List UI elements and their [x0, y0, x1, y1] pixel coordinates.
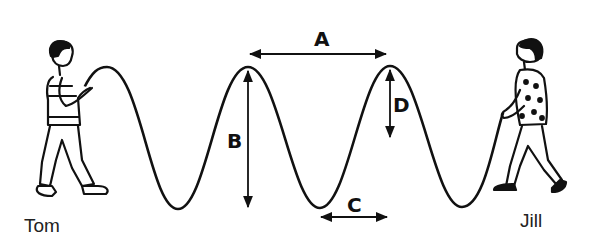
tom-name-label: Tom: [24, 216, 60, 235]
label-b: B: [227, 131, 242, 151]
wave-diagram: A B C D Tom Jill: [0, 0, 593, 240]
diagram-canvas: [0, 0, 593, 240]
rope-wave: [84, 66, 503, 209]
label-d: D: [393, 95, 410, 115]
label-c: C: [347, 195, 362, 215]
jill-name-label: Jill: [520, 211, 542, 230]
jill-figure-icon: [494, 39, 566, 192]
tom-figure-icon: [37, 41, 108, 196]
label-a: A: [314, 29, 329, 49]
